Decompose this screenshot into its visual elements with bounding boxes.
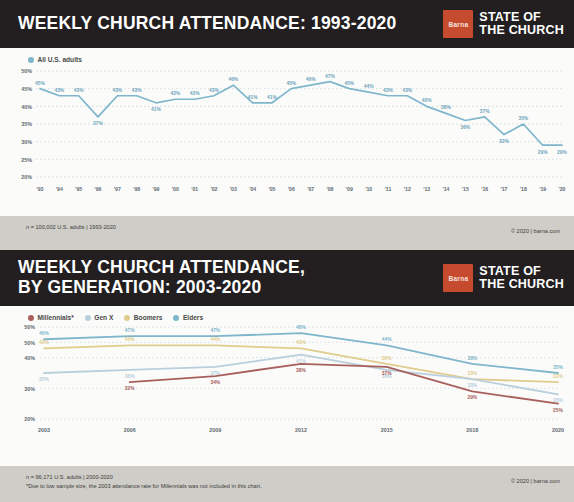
state-of-the-church-wordmark: STATE OF THE CHURCH	[479, 265, 564, 291]
data-point-label: 38%	[382, 356, 392, 361]
barna-logo-icon: Barna	[443, 10, 473, 38]
data-point-label: 41%	[267, 95, 277, 100]
x-axis-tick-label: '00	[172, 186, 179, 192]
y-axis-tick-label: 20%	[24, 416, 35, 422]
barna-brand-lockup-secondary: Barna STATE OF THE CHURCH	[443, 264, 564, 292]
x-axis-tick-label: '20	[558, 186, 565, 192]
x-axis-tick-label: '11	[385, 186, 392, 192]
chart-panel-attendance-overall: WEEKLY CHURCH ATTENDANCE: 1993-2020 Barn…	[0, 0, 574, 250]
data-point-label: 36%	[125, 374, 135, 379]
y-axis-tick-label: 25%	[21, 157, 32, 163]
chart2-copyright: © 2020 | barna.com	[511, 473, 560, 484]
x-axis-tick-label: 2006	[124, 427, 136, 433]
legend-item: Gen X	[85, 314, 114, 321]
x-axis-tick-label: '04	[249, 186, 256, 192]
barna-logo-text: Barna	[448, 275, 468, 282]
data-point-label: 46%	[306, 77, 316, 82]
y-axis-tick-label: 50%	[24, 324, 35, 330]
data-point-label: 33%	[467, 371, 477, 376]
data-point-label: 47%	[325, 74, 335, 79]
x-axis-tick-label: '17	[500, 186, 507, 192]
legend-item-label: All U.S. adults	[38, 56, 82, 63]
barna-brand-lockup: Barna STATE OF THE CHURCH	[443, 10, 564, 38]
data-point-label: 35%	[518, 116, 528, 121]
data-point-label: 32%	[553, 374, 563, 379]
data-point-label: 38%	[441, 105, 451, 110]
y-axis-tick-label: 30%	[21, 139, 32, 145]
data-point-label: 34%	[210, 380, 220, 385]
data-point-label: 48%	[296, 325, 306, 330]
legend-color-swatch-icon	[173, 315, 179, 321]
x-axis-tick-label: '07	[307, 186, 314, 192]
data-point-label: 45%	[286, 81, 296, 86]
chart1-legend: All U.S. adults	[0, 48, 574, 65]
x-axis-tick-label: '05	[268, 186, 275, 192]
x-axis-tick-label: 2003	[38, 427, 50, 433]
data-point-label: 43%	[296, 340, 306, 345]
x-axis-tick-label: '03	[230, 186, 237, 192]
data-point-label: 32%	[125, 386, 135, 391]
data-point-label: 37%	[480, 109, 490, 114]
data-point-label: 44%	[125, 337, 135, 342]
x-axis-tick-label: '16	[481, 186, 488, 192]
data-point-label: 36%	[460, 125, 470, 130]
y-axis-tick-label: 40%	[21, 104, 32, 110]
data-point-label: 46%	[39, 331, 49, 336]
chart2-sample-size: n = 96,171 U.S. adults | 2000-2020	[26, 473, 262, 482]
legend-item: All U.S. adults	[28, 56, 82, 63]
y-axis-tick-label: 40%	[24, 355, 35, 361]
legend-item: Elders	[173, 314, 203, 321]
x-axis-tick-label: '08	[326, 186, 333, 192]
x-axis-tick-label: '13	[423, 186, 430, 192]
data-point-label: 37%	[93, 121, 103, 126]
chart2-header: WEEKLY CHURCH ATTENDANCE, BY GENERATION:…	[0, 250, 574, 306]
data-point-label: 35%	[553, 365, 563, 370]
data-point-label: 43%	[383, 88, 393, 93]
legend-item-label: Boomers	[134, 314, 163, 321]
data-point-label: 35%	[39, 377, 49, 382]
chart2-disclaimer: *Due to low sample size, the 2003 attend…	[26, 482, 262, 491]
data-point-label: 42%	[190, 91, 200, 96]
y-axis-tick-label: 45%	[21, 86, 32, 92]
legend-item: Boomers	[124, 314, 162, 321]
chart1-line-chart: 20%25%30%35%40%45%50%45%43%43%37%43%43%4…	[0, 65, 574, 205]
y-axis-tick-label: 20%	[21, 174, 32, 180]
x-axis-tick-label: '01	[191, 186, 198, 192]
data-point-label: 32%	[499, 139, 509, 144]
x-axis-tick-label: '99	[152, 186, 159, 192]
data-point-label: 44%	[382, 337, 392, 342]
chart2-line-chart: 50%50%40%30%20%46%47%47%48%44%38%35%43%4…	[0, 323, 574, 443]
data-point-label: 47%	[210, 328, 220, 333]
x-axis-tick-label: '15	[462, 186, 469, 192]
y-axis-tick-label: 30%	[24, 386, 35, 392]
x-axis-tick-label: '12	[404, 186, 411, 192]
y-axis-tick-label: 50%	[24, 340, 35, 346]
y-axis-tick-label: 50%	[21, 68, 32, 74]
data-point-label: 44%	[364, 84, 374, 89]
data-point-label: 25%	[553, 408, 563, 413]
x-axis-tick-label: '02	[210, 186, 217, 192]
x-axis-tick-label: 2012	[295, 427, 307, 433]
data-point-label: 29%	[538, 150, 548, 155]
barna-logo-icon: Barna	[443, 264, 473, 292]
x-axis-tick-label: '14	[442, 186, 449, 192]
legend-item-label: Gen X	[94, 314, 113, 321]
chart2-plot-area: 50%50%40%30%20%46%47%47%48%44%38%35%43%4…	[0, 323, 574, 443]
x-axis-tick-label: 2009	[209, 427, 221, 433]
data-point-label: 29%	[557, 150, 567, 155]
data-point-label: 46%	[228, 77, 238, 82]
data-point-label: 45%	[35, 81, 45, 86]
legend-color-swatch-icon	[28, 57, 34, 63]
chart1-plot-area: 20%25%30%35%40%45%50%45%43%43%37%43%43%4…	[0, 65, 574, 205]
data-point-label: 29%	[467, 395, 477, 400]
legend-item-label: Millennials*	[38, 314, 74, 321]
x-axis-tick-label: '96	[94, 186, 101, 192]
state-of-the-church-wordmark: STATE OF THE CHURCH	[479, 11, 564, 37]
x-axis-tick-label: '06	[288, 186, 295, 192]
legend-color-swatch-icon	[85, 315, 91, 321]
x-axis-tick-label: '18	[520, 186, 527, 192]
legend-color-swatch-icon	[124, 315, 130, 321]
x-axis-tick-label: 2020	[552, 427, 564, 433]
page-title: WEEKLY CHURCH ATTENDANCE: 1993-2020	[18, 14, 396, 34]
data-point-label: 43%	[54, 88, 64, 93]
